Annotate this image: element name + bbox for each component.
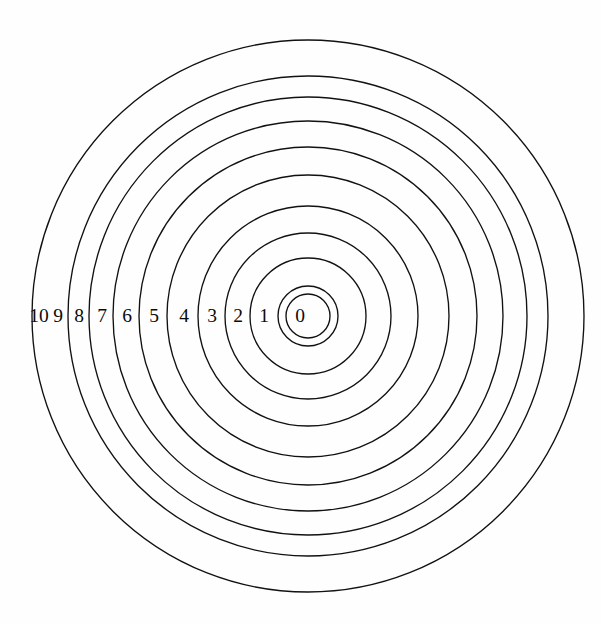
ring-label-9: 9 (53, 305, 63, 326)
ring-label-4: 4 (179, 305, 189, 326)
figure-root: 012345678910 (0, 0, 601, 623)
ring-circle-4 (198, 206, 418, 426)
ring-label-1: 1 (259, 305, 269, 326)
ring-label-0: 0 (295, 305, 305, 326)
ring-circle-10 (32, 40, 584, 592)
ring-circle-1 (278, 286, 338, 346)
ring-label-3: 3 (207, 305, 217, 326)
ring-circle-6 (139, 147, 477, 485)
ring-label-8: 8 (74, 305, 84, 326)
ring-circle-9 (68, 76, 548, 556)
ring-circle-7 (113, 121, 503, 511)
ring-label-2: 2 (233, 305, 243, 326)
ring-circle-0 (286, 294, 330, 338)
rings-group (32, 40, 584, 592)
ring-label-10: 10 (29, 305, 49, 326)
ring-label-5: 5 (149, 305, 159, 326)
ring-label-7: 7 (97, 305, 107, 326)
ring-label-6: 6 (122, 305, 132, 326)
concentric-ring-target: 012345678910 (0, 0, 601, 623)
